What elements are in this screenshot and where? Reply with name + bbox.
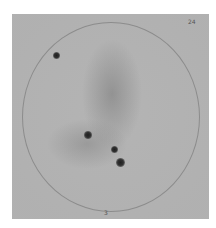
specimen-plate: 24 3 <box>12 14 209 219</box>
spot-center <box>111 146 118 153</box>
spot-lower-center <box>116 158 125 167</box>
spot-upper-left <box>53 52 60 59</box>
dish-outline <box>22 22 200 212</box>
label-top-right: 24 <box>188 18 196 25</box>
label-bottom: 3 <box>104 209 108 216</box>
spot-center-left <box>84 131 92 139</box>
